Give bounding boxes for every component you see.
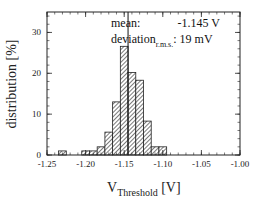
x-tick-label: -1.15 [115, 159, 134, 169]
deviation-subscript: r.m.s. [156, 40, 174, 49]
x-axis-title-unit: [V] [158, 180, 181, 195]
histogram-bar [120, 46, 128, 155]
x-axis-title-sub: Threshold [117, 187, 158, 198]
histogram-bar [113, 102, 121, 155]
x-tick-label: -1.25 [38, 159, 57, 169]
x-tick-label: -1.00 [231, 159, 250, 169]
histogram-bars [59, 46, 167, 155]
x-tick-label: -1.20 [76, 159, 95, 169]
y-tick-label: 20 [32, 68, 42, 78]
y-tick-label: 30 [32, 27, 42, 37]
histogram-chart: -1.25-1.20-1.15-1.10-1.05-1.00 0102030 m… [0, 0, 256, 203]
histogram-bar [128, 72, 136, 155]
y-axis-title: distribution [%] [4, 39, 19, 128]
annotation-mean-value: -1.145 V [178, 16, 221, 30]
histogram-bar [144, 121, 152, 155]
x-axis-title: VThreshold [V] [107, 180, 181, 198]
annotation-mean-label: mean: [111, 16, 140, 30]
histogram-bar [105, 132, 113, 155]
x-tick-label: -1.05 [192, 159, 211, 169]
y-tick-label: 0 [37, 150, 42, 160]
histogram-bar [136, 80, 144, 155]
x-tick-label: -1.10 [153, 159, 172, 169]
y-tick-label: 10 [32, 109, 42, 119]
deviation-label: deviation [111, 32, 156, 46]
deviation-value: : 19 mV [173, 32, 213, 46]
x-axis-title-main: V [107, 180, 117, 195]
